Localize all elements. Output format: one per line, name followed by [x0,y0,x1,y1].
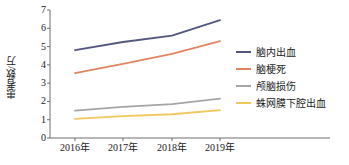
y-tick-label: 5 [26,42,46,52]
y-tick-label: 3 [26,78,46,88]
legend-item[interactable]: 脑梗死 [236,61,346,77]
series-line-0 [75,20,220,50]
y-tick-label: 7 [26,5,46,15]
legend-swatch-icon [236,68,251,70]
chart-legend: 脑内出血脑梗死颅脑损伤蛛网膜下腔出血 [236,44,346,112]
legend-item[interactable]: 蛛网膜下腔出血 [236,95,346,111]
y-axis-title: 患者数/万 [6,36,24,120]
series-line-2 [75,99,220,111]
legend-swatch-icon [236,51,251,53]
legend-label: 脑梗死 [256,64,286,75]
x-axis-tick-labels: 2016年 2017年 2018年 2019年 [0,142,349,162]
line-chart: 患者数/万 7 6 5 4 3 2 1 0 2016年 2017年 2018年 … [0,0,349,165]
series-lines [75,20,220,119]
y-tick-label: 4 [26,60,46,70]
legend-item[interactable]: 脑内出血 [236,44,346,60]
legend-label: 颅脑损伤 [256,81,296,92]
x-tick-label: 2019年 [190,142,250,154]
y-tick-label: 1 [26,115,46,125]
legend-swatch-icon [236,102,251,104]
y-tick-label: 2 [26,96,46,106]
y-tick-label: 6 [26,23,46,33]
legend-swatch-icon [236,85,251,87]
legend-label: 脑内出血 [256,47,296,58]
series-line-3 [75,110,220,119]
legend-item[interactable]: 颅脑损伤 [236,78,346,94]
legend-label: 蛛网膜下腔出血 [256,98,326,109]
y-axis-tick-labels: 7 6 5 4 3 2 1 0 [26,0,46,165]
